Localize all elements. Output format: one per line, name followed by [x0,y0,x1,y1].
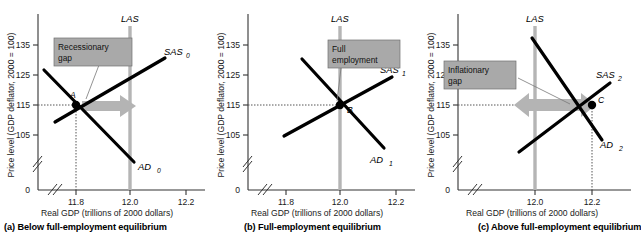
ad1-curve-sublabel: 1 [389,160,393,167]
y-tick-label-zero: 0 [25,185,30,195]
sas0-curve-sublabel: 0 [186,52,190,59]
sas2-curve-label: SAS [596,69,616,80]
x-tick-label-122: 12.2 [178,197,195,207]
panel-a-caption: (a) Below full-employment equilibrium [4,222,167,232]
panel-b-chart: 135 125 115 105 0 11.8 12.0 12.2 Real GD… [210,0,421,239]
panel-b-caption: (b) Full-employment equilibrium [244,222,381,232]
las-curve-label: LAS [331,13,349,24]
equilibrium-point-b [336,101,344,109]
sas1-curve-sublabel: 1 [402,70,406,77]
las-curve-label: LAS [121,13,139,24]
sas0-curve-label: SAS [164,46,184,57]
equilibrium-point-a-label: A [69,90,76,100]
y-tick-label-105: 105 [226,130,241,140]
x-tick-label-120: 12.0 [122,197,139,207]
y-axis-title: Price level (GDP deflator, 2000 = 100) [426,32,436,177]
equilibrium-point-a [72,101,80,109]
y-axis-title: Price level (GDP deflator, 2000 = 100) [216,32,226,177]
x-axis-title: Real GDP (trillions of 2000 dollars) [41,208,173,218]
y-tick-label-125: 125 [16,70,31,80]
x-tick-label-122: 12.2 [388,197,405,207]
x-axis-title: Real GDP (trillions of 2000 dollars) [466,208,598,218]
y-tick-label-135: 135 [436,40,451,50]
las-curve-label: LAS [526,13,544,24]
y-tick-label-125: 125 [226,70,241,80]
recessionary-gap-line1: Recessionary [58,42,110,52]
x-tick-label-118: 11.8 [68,197,84,207]
ad2-curve [532,38,602,140]
panel-c-chart: 135 125 115 105 0 12.0 12.2 Real GDP (tr… [420,0,631,239]
y-tick-label-115: 115 [436,100,450,110]
y-tick-label-105: 105 [16,130,31,140]
ad0-curve-label: AD [137,161,151,172]
ad2-curve-sublabel: 2 [618,145,623,152]
recessionary-gap-arrow [82,95,136,117]
x-tick-label-120: 12.0 [332,197,349,207]
panel-a-below-full-employment: 135 125 115 105 0 11.8 12.0 12.2 Real GD… [0,0,211,239]
x-tick-label-118: 11.8 [278,197,294,207]
full-employment-line2: employment [332,55,378,65]
y-tick-label-135: 135 [16,40,31,50]
y-tick-label-115: 115 [16,100,30,110]
x-tick-label-120: 12.0 [527,197,544,207]
sas2-curve [519,83,610,152]
panel-c-caption: (c) Above full-employment equilibrium [478,222,641,232]
inflationary-gap-line2: gap [448,76,462,86]
equilibrium-point-c [588,101,596,109]
y-axis-title: Price level (GDP deflator, 2000 = 100) [6,32,16,177]
ad2-curve-label: AD [599,139,613,150]
sas2-curve-sublabel: 2 [617,75,622,82]
y-tick-label-105: 105 [436,130,451,140]
recessionary-gap-leader-line [86,65,99,99]
y-tick-label-zero: 0 [235,185,240,195]
equilibrium-point-c-label: C [598,95,605,105]
x-tick-label-122: 12.2 [584,197,601,207]
full-employment-line1: Full [332,44,346,54]
panel-b-full-employment: 135 125 115 105 0 11.8 12.0 12.2 Real GD… [210,0,421,239]
panel-a-chart: 135 125 115 105 0 11.8 12.0 12.2 Real GD… [0,0,211,239]
equilibrium-point-b-label: B [347,105,353,115]
y-tick-label-115: 115 [226,100,240,110]
ad1-curve-label: AD [369,154,383,165]
recessionary-gap-line2: gap [58,53,72,63]
y-tick-label-135: 135 [226,40,241,50]
y-tick-label-zero: 0 [445,185,450,195]
inflationary-gap-line1: Inflationary [448,65,490,75]
x-axis-title: Real GDP (trillions of 2000 dollars) [251,208,383,218]
ad0-curve-sublabel: 0 [157,167,161,174]
panel-c-above-full-employment: 135 125 115 105 0 12.0 12.2 Real GDP (tr… [420,0,631,239]
